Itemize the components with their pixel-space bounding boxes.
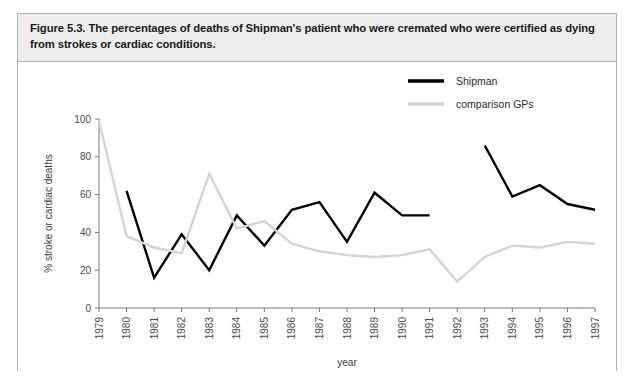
series-line-comparison-gps — [99, 121, 595, 282]
x-tick-label: 1981 — [149, 317, 160, 340]
y-tick-label: 0 — [85, 303, 91, 314]
y-tick-label: 40 — [80, 227, 92, 238]
x-tick-label: 1992 — [452, 317, 463, 340]
x-tick-label: 1991 — [424, 317, 435, 340]
x-tick-label: 1994 — [507, 317, 518, 340]
x-axis-title: year — [337, 357, 357, 368]
x-tick-label: 1990 — [397, 317, 408, 340]
x-tick-label: 1982 — [176, 317, 187, 340]
x-tick-label: 1993 — [479, 317, 490, 340]
x-tick-label: 1984 — [231, 317, 242, 340]
y-axis-title: % stroke or cardiac deaths — [43, 154, 54, 272]
chart-legend: Shipmancomparison GPs — [408, 75, 534, 110]
y-tick-label: 80 — [80, 151, 92, 162]
x-tick-label: 1987 — [314, 317, 325, 340]
x-tick-label: 1986 — [286, 317, 297, 340]
y-tick-label: 20 — [80, 265, 92, 276]
x-axis: 1979198019811982198319841985198619871988… — [94, 308, 601, 339]
y-tick-label: 60 — [80, 189, 92, 200]
x-tick-label: 1988 — [342, 317, 353, 340]
legend-label-shipman: Shipman — [456, 75, 498, 87]
chart-plot-area: 020406080100 197919801981198219831984198… — [18, 62, 616, 371]
series-group — [99, 121, 595, 282]
x-tick-label: 1985 — [259, 317, 270, 340]
x-tick-label: 1997 — [590, 317, 601, 340]
x-tick-label: 1979 — [94, 317, 105, 340]
line-chart: 020406080100 197919801981198219831984198… — [18, 62, 616, 371]
figure-caption-bar: Figure 5.3. The percentages of deaths of… — [18, 14, 616, 62]
x-tick-label: 1996 — [562, 317, 573, 340]
x-tick-label: 1983 — [204, 317, 215, 340]
y-tick-label: 100 — [74, 114, 91, 125]
x-tick-label: 1995 — [534, 317, 545, 340]
x-tick-label: 1980 — [121, 317, 132, 340]
legend-label-comparison-gps: comparison GPs — [456, 98, 534, 110]
figure-caption: Figure 5.3. The percentages of deaths of… — [30, 21, 604, 52]
y-axis: 020406080100 — [74, 114, 99, 314]
figure-frame: Figure 5.3. The percentages of deaths of… — [17, 13, 617, 371]
series-line-shipman — [127, 191, 430, 278]
series-line-shipman — [485, 145, 595, 209]
x-tick-label: 1989 — [369, 317, 380, 340]
